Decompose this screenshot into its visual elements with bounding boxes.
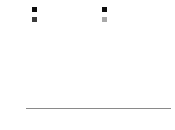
legend-item-trade[interactable] xyxy=(102,4,166,14)
legend-swatch-trade-icon xyxy=(102,7,107,12)
legend-swatch-property-icon xyxy=(102,17,107,22)
chart-legend xyxy=(32,4,172,24)
legend-swatch-consumption-icon xyxy=(32,7,37,12)
legend-item-consumption[interactable] xyxy=(32,4,96,14)
x-axis-line xyxy=(26,108,171,109)
legend-swatch-income-icon xyxy=(32,17,37,22)
stacked-bar-chart xyxy=(0,0,175,130)
legend-item-income[interactable] xyxy=(32,14,96,24)
plot-area xyxy=(26,31,169,108)
legend-item-property[interactable] xyxy=(102,14,166,24)
